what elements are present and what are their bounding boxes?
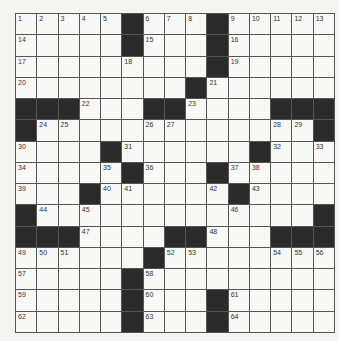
- grid-cell[interactable]: 43: [250, 184, 270, 204]
- grid-cell[interactable]: [80, 248, 100, 268]
- grid-cell[interactable]: [59, 312, 79, 332]
- grid-cell[interactable]: [314, 57, 334, 77]
- grid-cell[interactable]: [292, 205, 312, 225]
- grid-cell[interactable]: [186, 269, 206, 289]
- grid-cell[interactable]: [292, 312, 312, 332]
- grid-cell[interactable]: [271, 78, 291, 98]
- grid-cell[interactable]: 29: [292, 120, 312, 140]
- grid-cell[interactable]: [207, 120, 227, 140]
- grid-cell[interactable]: [101, 35, 121, 55]
- grid-cell[interactable]: 16: [229, 35, 249, 55]
- grid-cell[interactable]: [250, 57, 270, 77]
- grid-cell[interactable]: 47: [80, 227, 100, 247]
- grid-cell[interactable]: [101, 312, 121, 332]
- grid-cell[interactable]: 61: [229, 290, 249, 310]
- grid-cell[interactable]: 14: [16, 35, 36, 55]
- grid-cell[interactable]: [101, 290, 121, 310]
- grid-cell[interactable]: 15: [144, 35, 164, 55]
- grid-cell[interactable]: [80, 290, 100, 310]
- grid-cell[interactable]: [250, 227, 270, 247]
- grid-cell[interactable]: 42: [207, 184, 227, 204]
- grid-cell[interactable]: [165, 163, 185, 183]
- grid-cell[interactable]: [101, 78, 121, 98]
- grid-cell[interactable]: 17: [16, 57, 36, 77]
- grid-cell[interactable]: [37, 290, 57, 310]
- grid-cell[interactable]: [101, 205, 121, 225]
- grid-cell[interactable]: [80, 57, 100, 77]
- grid-cell[interactable]: [165, 57, 185, 77]
- grid-cell[interactable]: [250, 312, 270, 332]
- grid-cell[interactable]: [207, 269, 227, 289]
- grid-cell[interactable]: [80, 35, 100, 55]
- grid-cell[interactable]: 55: [292, 248, 312, 268]
- grid-cell[interactable]: [59, 78, 79, 98]
- grid-cell[interactable]: [292, 290, 312, 310]
- grid-cell[interactable]: [59, 290, 79, 310]
- grid-cell[interactable]: 58: [144, 269, 164, 289]
- grid-cell[interactable]: [122, 205, 142, 225]
- grid-cell[interactable]: [101, 57, 121, 77]
- grid-cell[interactable]: 48: [207, 227, 227, 247]
- grid-cell[interactable]: [101, 269, 121, 289]
- grid-cell[interactable]: [186, 205, 206, 225]
- grid-cell[interactable]: [271, 312, 291, 332]
- grid-cell[interactable]: 44: [37, 205, 57, 225]
- grid-cell[interactable]: [250, 78, 270, 98]
- grid-cell[interactable]: 5: [101, 14, 121, 34]
- grid-cell[interactable]: [80, 312, 100, 332]
- grid-cell[interactable]: [122, 248, 142, 268]
- grid-cell[interactable]: [165, 142, 185, 162]
- grid-cell[interactable]: [292, 163, 312, 183]
- grid-cell[interactable]: [80, 163, 100, 183]
- grid-cell[interactable]: 28: [271, 120, 291, 140]
- grid-cell[interactable]: 59: [16, 290, 36, 310]
- grid-cell[interactable]: [250, 35, 270, 55]
- grid-cell[interactable]: [229, 227, 249, 247]
- grid-cell[interactable]: [207, 142, 227, 162]
- grid-cell[interactable]: 36: [144, 163, 164, 183]
- grid-cell[interactable]: [250, 290, 270, 310]
- grid-cell[interactable]: [207, 99, 227, 119]
- grid-cell[interactable]: [165, 78, 185, 98]
- grid-cell[interactable]: [229, 269, 249, 289]
- grid-cell[interactable]: [186, 290, 206, 310]
- grid-cell[interactable]: [80, 120, 100, 140]
- grid-cell[interactable]: [165, 35, 185, 55]
- grid-cell[interactable]: 11: [271, 14, 291, 34]
- grid-cell[interactable]: 30: [16, 142, 36, 162]
- grid-cell[interactable]: 31: [122, 142, 142, 162]
- grid-cell[interactable]: [314, 184, 334, 204]
- grid-cell[interactable]: 20: [16, 78, 36, 98]
- grid-cell[interactable]: 40: [101, 184, 121, 204]
- grid-cell[interactable]: 60: [144, 290, 164, 310]
- grid-cell[interactable]: [271, 205, 291, 225]
- grid-cell[interactable]: [271, 57, 291, 77]
- grid-cell[interactable]: [314, 290, 334, 310]
- grid-cell[interactable]: [186, 120, 206, 140]
- grid-cell[interactable]: [37, 142, 57, 162]
- grid-cell[interactable]: [37, 184, 57, 204]
- grid-cell[interactable]: [271, 35, 291, 55]
- grid-cell[interactable]: 62: [16, 312, 36, 332]
- grid-cell[interactable]: [144, 227, 164, 247]
- grid-cell[interactable]: [314, 312, 334, 332]
- grid-cell[interactable]: 64: [229, 312, 249, 332]
- grid-cell[interactable]: [207, 248, 227, 268]
- grid-cell[interactable]: 35: [101, 163, 121, 183]
- grid-cell[interactable]: [207, 205, 227, 225]
- grid-cell[interactable]: [314, 163, 334, 183]
- grid-cell[interactable]: [250, 99, 270, 119]
- grid-cell[interactable]: [59, 269, 79, 289]
- grid-cell[interactable]: [186, 142, 206, 162]
- grid-cell[interactable]: 13: [314, 14, 334, 34]
- grid-cell[interactable]: [59, 205, 79, 225]
- grid-cell[interactable]: [229, 78, 249, 98]
- grid-cell[interactable]: 38: [250, 163, 270, 183]
- grid-cell[interactable]: [101, 120, 121, 140]
- grid-cell[interactable]: 4: [80, 14, 100, 34]
- grid-cell[interactable]: 32: [271, 142, 291, 162]
- grid-cell[interactable]: [80, 78, 100, 98]
- grid-cell[interactable]: 8: [186, 14, 206, 34]
- grid-cell[interactable]: [292, 142, 312, 162]
- grid-cell[interactable]: [250, 248, 270, 268]
